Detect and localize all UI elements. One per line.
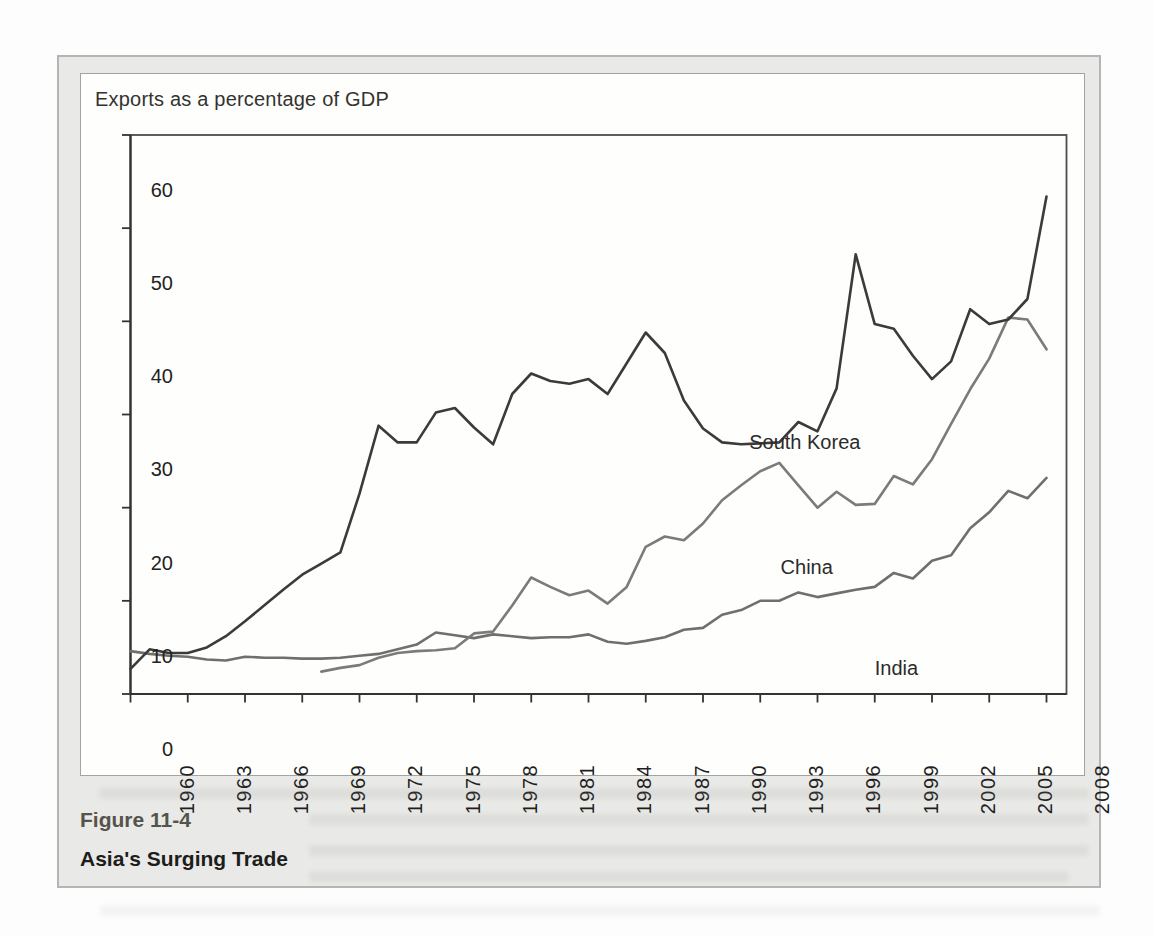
print-bleedthrough-smudge xyxy=(309,872,1069,882)
figure-number: Figure 11-4 xyxy=(80,808,191,832)
series-label-india: India xyxy=(875,656,918,679)
print-bleedthrough-smudge xyxy=(309,845,1089,856)
print-bleedthrough-smudge xyxy=(309,814,1089,825)
chart-area: Exports as a percentage of GDP xyxy=(80,73,1085,776)
south-korea-line xyxy=(131,197,1047,669)
figure-caption: Asia's Surging Trade xyxy=(80,847,288,871)
print-bleedthrough-smudge xyxy=(99,788,1089,799)
india-line xyxy=(131,478,1047,661)
figure-panel: Exports as a percentage of GDP 010203040… xyxy=(57,55,1101,888)
y-axis-label: 10 xyxy=(131,645,173,667)
y-axis-label: 60 xyxy=(131,179,173,201)
plot-frame xyxy=(131,135,1067,694)
y-axis-label: 20 xyxy=(131,552,173,574)
y-axis-label: 50 xyxy=(131,272,173,294)
y-axis-label: 40 xyxy=(131,365,173,387)
series-label-china: China xyxy=(781,556,833,579)
series-label-south-korea: South Korea xyxy=(749,430,860,453)
china-line xyxy=(321,318,1046,672)
y-axis-label: 0 xyxy=(131,738,173,760)
scanned-textbook-page: Exports as a percentage of GDP 010203040… xyxy=(0,0,1154,935)
print-bleedthrough-smudge xyxy=(100,905,1100,916)
plot-svg xyxy=(81,74,1086,777)
x-axis-label: 2008 xyxy=(1091,764,1114,815)
y-axis-label: 30 xyxy=(131,458,173,480)
